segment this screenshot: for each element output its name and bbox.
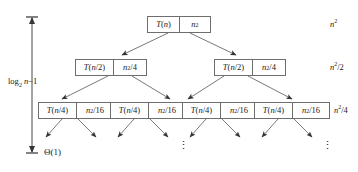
node-cost-cell: n2/4 <box>253 60 285 75</box>
edge-l1n0-to-l2n1 <box>132 76 170 99</box>
tree-node-level0-0: T(n) n2 <box>147 16 211 33</box>
edge-l1n0-to-l2n0 <box>62 76 108 99</box>
ellipsis-icon: ⋮ <box>322 140 333 151</box>
node-cost-cell: n2/16 <box>293 103 329 118</box>
leaf-cost-label: Θ(1) <box>44 147 61 157</box>
row-cost-label-level0: n2 <box>330 19 337 29</box>
row-cost-label-level2: n2/4 <box>334 105 348 115</box>
node-cost-cell: n2/16 <box>221 103 257 118</box>
row-cost-label-level1: n2/2 <box>330 62 344 72</box>
depth-axis-label: log2 n−1 <box>8 76 37 86</box>
tree-node-level2-0: T(n/4) n2/16 <box>38 102 114 119</box>
tree-node-level2-1: T(n/4) n2/16 <box>110 102 186 119</box>
node-recurrence-cell: T(n) <box>148 17 180 32</box>
edge-l2n1-right-leaf <box>150 119 168 137</box>
tree-node-level2-3: T(n/4) n2/16 <box>254 102 330 119</box>
node-recurrence-cell: T(n/4) <box>183 103 221 118</box>
ellipsis-icon: ⋮ <box>178 140 189 151</box>
node-cost-cell: n2/4 <box>114 60 146 75</box>
node-cost-cell: n2 <box>180 17 210 32</box>
edge-l2n1-left-leaf <box>118 119 134 137</box>
edge-l2n0-left-leaf <box>46 119 62 137</box>
edge-l1n1-to-l2n3 <box>248 76 292 99</box>
edge-root-to-left-child <box>122 33 168 55</box>
edge-root-to-right-child <box>190 33 236 55</box>
node-recurrence-cell: T(n/4) <box>255 103 293 118</box>
tree-node-level1-1: T(n/2) n2/4 <box>214 59 286 76</box>
node-recurrence-cell: T(n/4) <box>39 103 77 118</box>
tree-node-level2-2: T(n/4) n2/16 <box>182 102 258 119</box>
edge-l2n2-right-leaf <box>222 119 240 137</box>
node-recurrence-cell: T(n/4) <box>111 103 149 118</box>
node-cost-cell: n2/16 <box>149 103 185 118</box>
edge-l2n2-left-leaf <box>190 119 206 137</box>
node-recurrence-cell: T(n/2) <box>215 60 253 75</box>
recursion-tree-figure: T(n) n2 T(n/2) n2/4 T(n/2) n2/4 T(n/4) n… <box>0 0 358 172</box>
edge-l2n3-left-leaf <box>262 119 278 137</box>
edge-l2n3-right-leaf <box>294 119 312 137</box>
edge-l1n1-to-l2n2 <box>188 76 224 99</box>
node-cost-cell: n2/16 <box>77 103 113 118</box>
tree-node-level1-0: T(n/2) n2/4 <box>75 59 147 76</box>
edge-l2n0-right-leaf <box>78 119 96 137</box>
node-recurrence-cell: T(n/2) <box>76 60 114 75</box>
